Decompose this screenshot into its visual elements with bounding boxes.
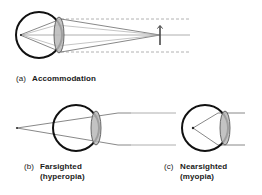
caption-panel-b: (b)Farsighted (hyperopia) [24, 162, 85, 182]
caption-name-b: Farsighted [40, 162, 82, 171]
eye-optics-figure: (a)Accommodation (b)Farsighted (hyperopi… [0, 0, 262, 195]
focal-point-b [16, 127, 18, 129]
caption-panel-a: (a)Accommodation [16, 74, 96, 84]
caption-panel-c: (c)Nearsighted (myopia) [164, 162, 227, 182]
panel-a-accommodation [16, 12, 190, 58]
focal-point-c [192, 127, 194, 129]
ray-upper [20, 19, 160, 35]
caption-label-b: (b) [24, 162, 40, 172]
caption-subtitle-c: (myopia) [180, 172, 227, 182]
retina-focal-point [20, 34, 22, 36]
crystalline-lens-b [91, 111, 101, 145]
crystalline-lens [54, 17, 64, 53]
ray-b-lower [17, 128, 131, 145]
panel-c-nearsighted [131, 105, 245, 151]
ray-c-lower [193, 128, 245, 145]
caption-subtitle-b: (hyperopia) [40, 172, 85, 182]
caption-label-c: (c) [164, 162, 180, 172]
ray-lower [20, 35, 160, 52]
caption-label-a: (a) [16, 74, 32, 84]
panel-b-farsighted [16, 105, 131, 151]
caption-name-a: Accommodation [32, 74, 96, 83]
crystalline-lens-c [220, 111, 230, 145]
ray-c-upper [193, 113, 245, 128]
ray-b-upper [17, 113, 131, 128]
caption-name-c: Nearsighted [180, 162, 227, 171]
